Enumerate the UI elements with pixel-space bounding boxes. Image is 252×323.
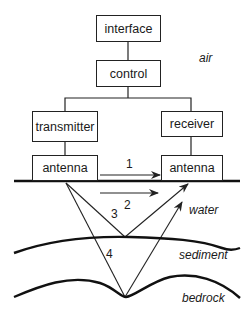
receiver-antenna-label: antenna xyxy=(169,161,214,175)
connector-bus xyxy=(65,98,191,111)
path-3-up-arrow xyxy=(125,184,188,237)
path-label-2: 2 xyxy=(124,198,131,212)
receiver-label: receiver xyxy=(170,117,214,131)
path-label-3: 3 xyxy=(111,207,118,221)
transmitter-antenna-label: antenna xyxy=(42,161,87,175)
path-label-1: 1 xyxy=(126,157,133,171)
control-label: control xyxy=(110,67,148,81)
path-label-4: 4 xyxy=(106,247,113,261)
transmitter-box: transmitter xyxy=(32,111,98,142)
receiver-antenna-box: antenna xyxy=(161,155,223,181)
layer-label-sediment: sediment xyxy=(179,248,228,262)
transmitter-label: transmitter xyxy=(35,120,94,134)
receiver-box: receiver xyxy=(161,111,223,137)
layer-label-bedrock: bedrock xyxy=(182,291,225,305)
transmitter-antenna-box: antenna xyxy=(32,155,98,181)
layer-label-air: air xyxy=(199,51,212,65)
layer-label-water: water xyxy=(189,203,218,217)
control-box: control xyxy=(96,60,161,87)
interface-box: interface xyxy=(96,15,161,42)
interface-label: interface xyxy=(105,22,153,36)
